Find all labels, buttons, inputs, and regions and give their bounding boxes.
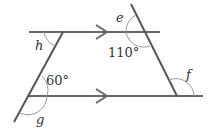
label-h: h <box>35 38 43 53</box>
diagram-canvas: h e 110° 60° g f <box>0 0 216 129</box>
top-parallel-line <box>29 25 160 39</box>
label-110: 110° <box>108 45 139 60</box>
label-e: e <box>116 10 124 25</box>
label-60: 60° <box>46 73 69 88</box>
angle-arc-h <box>44 32 55 46</box>
diagram: h e 110° 60° g f <box>0 0 216 129</box>
label-f: f <box>185 67 193 82</box>
label-g: g <box>36 112 44 127</box>
angle-arc-e <box>126 15 136 32</box>
